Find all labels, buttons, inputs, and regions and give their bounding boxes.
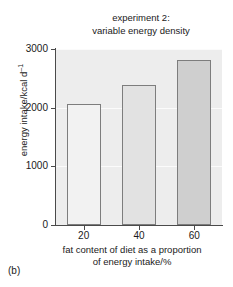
bar-60	[177, 60, 211, 225]
x-axis-title-text: fat content of diet as a proportion of e…	[63, 244, 202, 267]
y-tick	[51, 49, 56, 50]
panel-label: (b)	[8, 265, 20, 276]
y-tick-label: 0	[14, 219, 48, 230]
chart-title-text: experiment 2: variable energy density	[92, 12, 190, 36]
bar-20	[67, 104, 101, 225]
y-axis-title-exponent: –1	[17, 64, 24, 72]
x-axis-title: fat content of diet as a proportion of e…	[34, 244, 230, 268]
y-tick	[51, 225, 56, 226]
x-tick-label: 60	[174, 230, 214, 241]
y-axis-title-text: energy intake/kcal d	[18, 72, 29, 157]
chart-title: experiment 2: variable energy density	[52, 12, 230, 37]
plot-area	[56, 49, 222, 225]
bar-40	[122, 85, 156, 225]
x-tick-label: 20	[64, 230, 104, 241]
y-axis-line	[55, 48, 56, 226]
y-tick	[51, 108, 56, 109]
figure-panel-b: experiment 2: variable energy density 01…	[0, 0, 233, 287]
y-tick	[51, 166, 56, 167]
x-tick-label: 40	[119, 230, 159, 241]
gridline	[56, 49, 222, 50]
y-axis-title: energy intake/kcal d–1	[17, 30, 29, 190]
